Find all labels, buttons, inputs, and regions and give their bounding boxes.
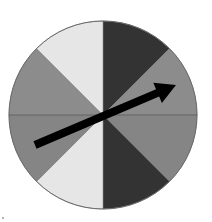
stray-dot [2, 217, 4, 219]
spinner-diagram [0, 0, 212, 222]
